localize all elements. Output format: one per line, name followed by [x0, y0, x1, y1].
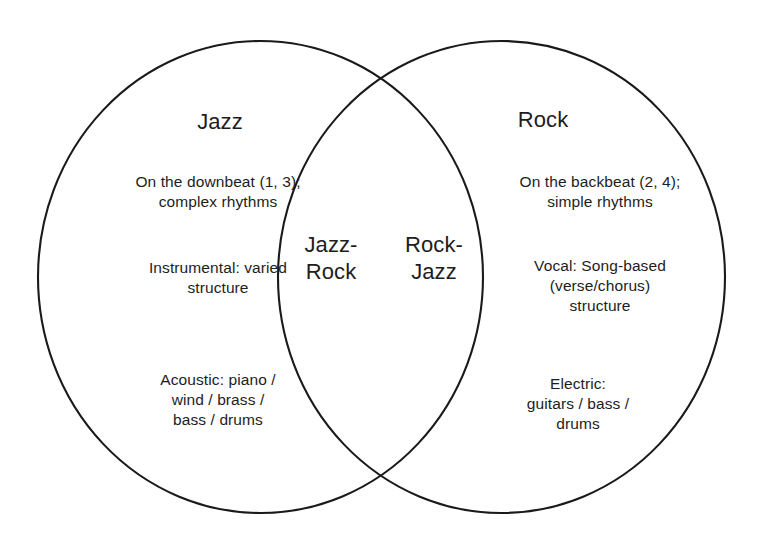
jazz-set-title: Jazz	[145, 110, 295, 134]
rock-set-title: Rock	[468, 108, 618, 132]
jazz-entry-instruments: Acoustic: piano / wind / brass / bass / …	[98, 370, 338, 430]
rock-entry-instruments: Electric: guitars / bass / drums	[462, 374, 694, 434]
overlap-label-jazz-rock: Jazz- Rock	[285, 232, 377, 286]
rock-entry-rhythm: On the backbeat (2, 4); simple rhythms	[472, 172, 728, 212]
overlap-label-rock-jazz: Rock- Jazz	[388, 232, 480, 286]
jazz-entry-rhythm: On the downbeat (1, 3); complex rhythms	[92, 172, 344, 212]
venn-diagram: Jazz On the downbeat (1, 3); complex rhy…	[0, 0, 759, 551]
rock-entry-structure: Vocal: Song-based (verse/chorus) structu…	[478, 256, 722, 316]
